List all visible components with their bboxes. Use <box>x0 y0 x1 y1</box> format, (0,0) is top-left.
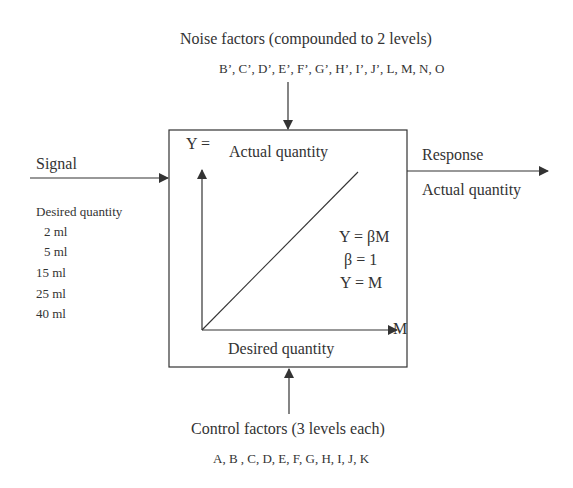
response-label: Response <box>422 146 483 164</box>
signal-desired-label: Desired quantity <box>36 204 122 220</box>
control-title: Control factors (3 levels each) <box>191 420 385 438</box>
signal-level: 5 ml <box>44 244 67 260</box>
x-axis-name: Desired quantity <box>228 340 334 358</box>
noise-factors: B’, C’, D’, E’, F’, G’, H’, I’, J’, L, M… <box>219 61 444 77</box>
signal-level: 40 ml <box>36 306 66 322</box>
response-value-label: Actual quantity <box>422 181 521 199</box>
signal-level: 2 ml <box>44 224 67 240</box>
equation-3: Y = M <box>340 274 382 292</box>
control-factors: A, B , C, D, E, F, G, H, I, J, K <box>213 451 369 467</box>
x-axis-symbol: M <box>393 320 407 338</box>
signal-label: Signal <box>36 155 77 173</box>
signal-level: 25 ml <box>36 286 66 302</box>
y-axis-name: Actual quantity <box>229 143 328 161</box>
y-axis-label: Y = <box>186 135 210 153</box>
equation-1: Y = βM <box>339 228 389 246</box>
equation-2: β = 1 <box>344 251 377 269</box>
system-box <box>169 130 407 367</box>
noise-title: Noise factors (compounded to 2 levels) <box>180 30 432 48</box>
response-line <box>202 172 358 330</box>
signal-level: 15 ml <box>36 265 66 281</box>
